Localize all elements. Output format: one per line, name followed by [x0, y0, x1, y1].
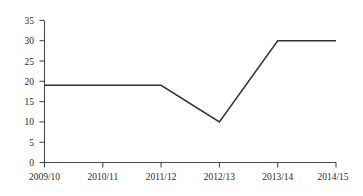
y-tick-label-5: 5 — [29, 138, 34, 148]
y-tick-label-20: 20 — [25, 77, 35, 87]
x-tick-label-2009-10: 2009/10 — [29, 172, 60, 182]
y-tick-label-25: 25 — [25, 57, 35, 67]
line-chart: 0 5 10 15 20 25 30 35 2009/10 2010/11 20… — [0, 0, 363, 196]
x-tick-label-2010-11: 2010/11 — [87, 172, 118, 182]
y-tick-label-10: 10 — [25, 117, 35, 127]
y-tick-label-35: 35 — [25, 16, 35, 26]
y-tick-label-30: 30 — [25, 36, 35, 46]
x-tick-label-2012-13: 2012/13 — [204, 172, 235, 182]
chart-canvas: 0 5 10 15 20 25 30 35 2009/10 2010/11 20… — [0, 0, 363, 196]
x-tick-label-2014-15: 2014/15 — [317, 172, 348, 182]
x-tick-label-2011-12: 2011/12 — [146, 172, 177, 182]
y-tick-label-15: 15 — [25, 97, 35, 107]
y-tick-label-0: 0 — [29, 158, 34, 168]
x-tick-label-2013-14: 2013/14 — [262, 172, 293, 182]
